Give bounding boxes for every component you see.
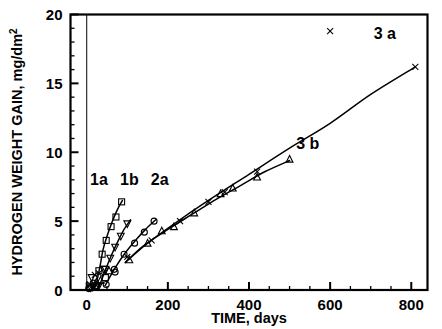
y-axis-title-superscript: 2: [8, 28, 19, 34]
annotation-2a: 2a: [151, 171, 169, 188]
x-tick-label: 600: [318, 296, 343, 313]
y-tick-label: 10: [46, 144, 63, 161]
chart-background: [0, 0, 442, 329]
y-axis-title-group: HYDROGEN WEIGHT GAIN, mg/dm2: [8, 28, 25, 276]
x-tick-label: 800: [399, 296, 424, 313]
annotation-3-a: 3 a: [374, 25, 396, 42]
annotation-1b: 1b: [120, 171, 139, 188]
x-tick-label: 0: [83, 296, 91, 313]
y-tick-label: 5: [54, 213, 62, 230]
y-tick-label: 15: [46, 75, 63, 92]
y-tick-label: 20: [46, 6, 63, 23]
x-tick-label: 200: [155, 296, 180, 313]
x-axis-title: TIME, days: [211, 310, 287, 326]
chart-figure: 05101520 0200400600800 1a1b2a3 a3 b TIME…: [0, 0, 442, 329]
y-tick-label: 0: [54, 282, 62, 299]
annotation-3-b: 3 b: [296, 135, 319, 152]
y-axis-title: HYDROGEN WEIGHT GAIN, mg/dm2: [8, 28, 25, 276]
hydrogen-weight-gain-chart: 05101520 0200400600800 1a1b2a3 a3 b TIME…: [0, 0, 442, 329]
annotation-1a: 1a: [90, 171, 108, 188]
